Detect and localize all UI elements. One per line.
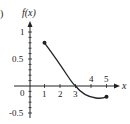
y-tick-label: 0 [20, 89, 25, 98]
x-tick-label: 2 [58, 90, 63, 99]
y-axis-label: f(x) [22, 8, 36, 18]
x-tick-label: 1 [42, 90, 47, 99]
start-point [43, 41, 47, 45]
y-tick-label: 1 [20, 28, 25, 37]
x-tick-label: 4 [89, 75, 94, 84]
x-axis-arrow-icon [114, 84, 120, 89]
end-point [105, 95, 109, 99]
y-axis-arrow-icon [28, 21, 33, 27]
y-tick-label: 0.5 [12, 55, 23, 64]
y-tick-label: -0.5 [9, 109, 23, 118]
x-axis-label: x [122, 81, 126, 91]
x-tick-label: 3 [73, 90, 78, 99]
x-tick-label: 5 [104, 75, 109, 84]
